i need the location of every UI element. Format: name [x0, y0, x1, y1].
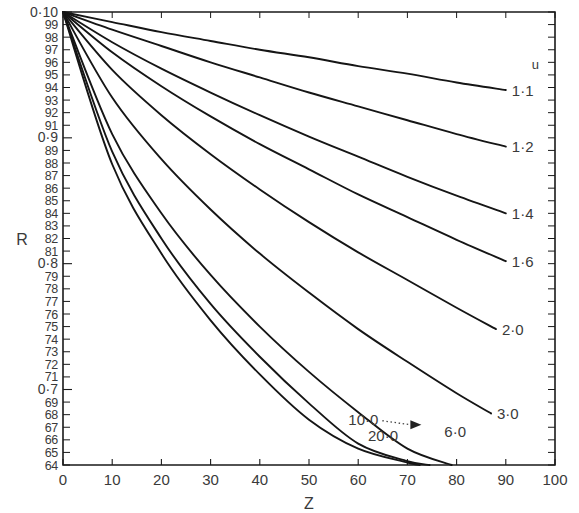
plot-frame — [63, 12, 555, 465]
x-axis-tick-label: 90 — [497, 471, 514, 488]
annotation-label-10-0: 10·0 — [348, 411, 378, 428]
line-chart-svg: 01020304050607080901000·1099989796959493… — [0, 0, 579, 513]
x-axis-tick-label: 50 — [301, 471, 318, 488]
x-axis-tick-label: 20 — [153, 471, 170, 488]
x-axis-tick-label: 60 — [350, 471, 367, 488]
annotation-label-6-0: 6·0 — [444, 423, 466, 440]
y-axis-title: R — [16, 231, 28, 248]
data-curve-2-0 — [63, 12, 496, 329]
annotation-label-20-0: 20·0 — [368, 427, 398, 444]
leader-arrow-icon — [410, 420, 421, 429]
x-axis-tick-label: 70 — [399, 471, 416, 488]
x-axis-tick-label: 80 — [448, 471, 465, 488]
y-axis-tick-label: 64 — [45, 459, 59, 473]
x-axis-tick-label: 40 — [251, 471, 268, 488]
series-label-1-1: 1·1 — [512, 82, 534, 99]
data-curve-1-4 — [63, 12, 506, 213]
x-axis-title: Z — [304, 495, 314, 512]
data-curve-10-0 — [63, 12, 430, 465]
x-axis-tick-label: 0 — [59, 471, 67, 488]
x-axis-tick-label: 100 — [542, 471, 567, 488]
series-label-1-2: 1·2 — [512, 138, 534, 155]
series-label-2-0: 2·0 — [502, 321, 524, 338]
series-label-1-4: 1·4 — [512, 205, 534, 222]
data-curve-1-6 — [63, 12, 506, 261]
chart-figure: 01020304050607080901000·1099989796959493… — [0, 0, 579, 513]
x-axis-tick-label: 10 — [104, 471, 121, 488]
series-parameter-label: u — [532, 57, 539, 72]
leader-line — [382, 421, 410, 425]
series-label-3-0: 3·0 — [497, 405, 519, 422]
series-label-1-6: 1·6 — [512, 253, 534, 270]
data-curve-3-0 — [63, 12, 491, 413]
x-axis-tick-label: 30 — [202, 471, 219, 488]
